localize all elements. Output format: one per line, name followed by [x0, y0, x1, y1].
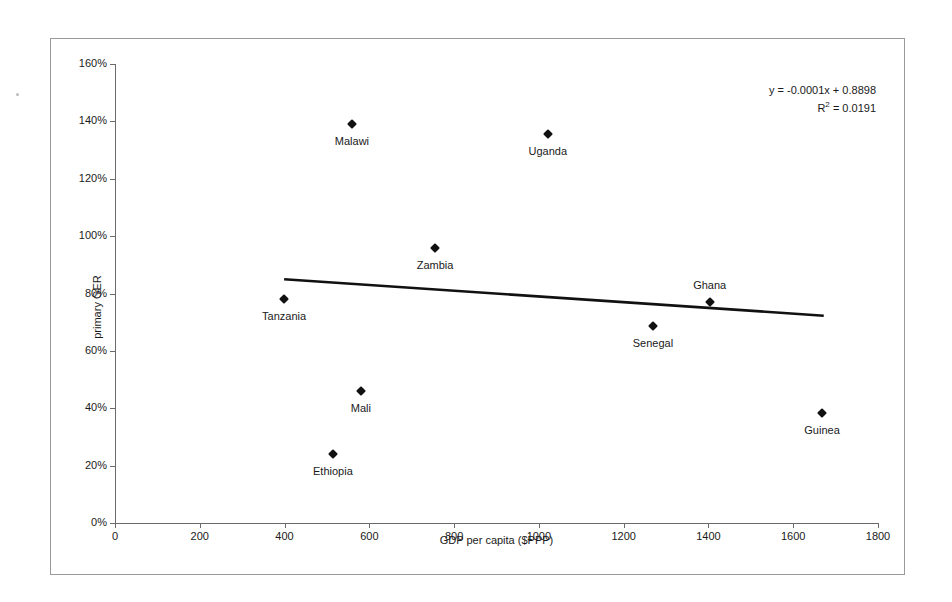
y-tick-label: 80% [63, 288, 107, 299]
y-tick-label: 160% [63, 58, 107, 69]
x-tick-label: 800 [445, 531, 463, 542]
data-point-label: Ethiopia [313, 466, 353, 477]
y-tick-mark [110, 408, 115, 409]
data-point-marker [705, 297, 715, 307]
data-point-marker [279, 294, 289, 304]
scan-speck [16, 93, 19, 96]
data-point-label: Guinea [804, 425, 839, 436]
y-tick-mark [110, 294, 115, 295]
x-tick-mark [200, 523, 201, 528]
x-tick-mark [285, 523, 286, 528]
y-tick-mark [110, 351, 115, 352]
data-point-label: Senegal [633, 338, 673, 349]
trendline [115, 64, 878, 524]
data-point-label: Tanzania [262, 311, 306, 322]
data-point-marker [430, 243, 440, 253]
x-tick-mark [539, 523, 540, 528]
data-point-label: Uganda [529, 146, 568, 157]
x-tick-mark [115, 523, 116, 528]
data-point-marker [328, 449, 338, 459]
y-tick-mark [110, 179, 115, 180]
y-axis-line [115, 64, 116, 524]
data-point-label: Ghana [693, 280, 726, 291]
y-tick-label: 60% [63, 345, 107, 356]
x-axis-line [115, 523, 879, 524]
data-point-marker [817, 408, 827, 418]
y-tick-label: 0% [63, 517, 107, 528]
data-point-label: Mali [351, 403, 371, 414]
x-tick-label: 1800 [866, 531, 890, 542]
x-tick-label: 600 [360, 531, 378, 542]
x-tick-mark [369, 523, 370, 528]
y-tick-mark [110, 466, 115, 467]
x-tick-mark [624, 523, 625, 528]
x-axis-title: GDP per capita ($PPP) [115, 534, 878, 546]
x-tick-label: 400 [275, 531, 293, 542]
data-point-marker [356, 386, 366, 396]
chart-frame: primary GER GDP per capita ($PPP) y = -0… [50, 38, 905, 575]
x-tick-label: 1400 [696, 531, 720, 542]
x-tick-label: 1600 [781, 531, 805, 542]
x-tick-label: 1200 [611, 531, 635, 542]
x-tick-mark [793, 523, 794, 528]
y-tick-label: 120% [63, 173, 107, 184]
y-tick-mark [110, 64, 115, 65]
y-tick-label: 20% [63, 460, 107, 471]
y-tick-mark [110, 236, 115, 237]
data-point-label: Zambia [417, 260, 454, 271]
y-tick-label: 100% [63, 230, 107, 241]
x-tick-mark [708, 523, 709, 528]
data-point-marker [648, 322, 658, 332]
data-point-marker [543, 129, 553, 139]
x-tick-mark [454, 523, 455, 528]
x-tick-label: 200 [191, 531, 209, 542]
y-tick-label: 140% [63, 115, 107, 126]
y-tick-mark [110, 121, 115, 122]
y-axis-title: primary GER [91, 275, 103, 339]
x-tick-label: 1000 [527, 531, 551, 542]
y-tick-label: 40% [63, 402, 107, 413]
plot-area: 0%20%40%60%80%100%120%140%160% 020040060… [115, 64, 878, 523]
x-tick-label: 0 [112, 531, 118, 542]
data-point-marker [347, 119, 357, 129]
x-tick-mark [878, 523, 879, 528]
data-point-label: Malawi [335, 136, 369, 147]
